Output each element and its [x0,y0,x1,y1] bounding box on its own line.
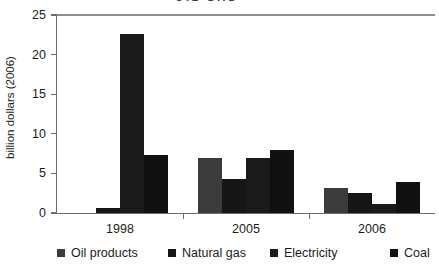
y-tick: 15 [51,94,57,95]
legend-label: Coal [404,246,430,260]
x-axis-label: 2006 [358,222,386,236]
y-tick-label: 0 [39,206,46,220]
plot-top-border [56,14,435,15]
bar [96,208,120,213]
y-tick-label: 25 [32,8,46,22]
cropped-title-text: OIL GAS [175,0,238,3]
bar [348,193,372,213]
legend-label: Oil products [71,246,138,260]
legend-swatch-icon [270,249,278,257]
legend-swatch-icon [390,249,398,257]
bar [198,158,222,213]
y-tick: 20 [51,54,57,55]
x-axis-label: 2005 [232,222,260,236]
x-axis-line [56,213,435,214]
legend-label: Natural gas [182,246,246,260]
legend-swatch-icon [168,249,176,257]
bar [144,155,168,213]
legend-swatch-icon [57,249,65,257]
y-tick: 25 [51,14,57,15]
y-tick-label: 5 [39,166,46,180]
bar [270,150,294,213]
y-tick: 10 [51,133,57,134]
legend-item[interactable]: Oil products [57,246,138,260]
cropped-title-sliver: OIL GAS [0,0,439,7]
y-tick-label: 10 [32,127,46,141]
bar [120,34,144,213]
bar [372,204,396,214]
legend-item[interactable]: Natural gas [168,246,246,260]
legend-item[interactable]: Electricity [270,246,337,260]
y-tick-label: 20 [32,48,46,62]
bar [246,158,270,213]
y-axis-line [56,15,57,214]
x-axis-label: 1998 [106,222,134,236]
plot-area: 0510152025 199820052006 [57,15,435,213]
legend-item[interactable]: Coal [390,246,430,260]
y-tick: 5 [51,173,57,174]
bar [222,179,246,213]
chart-legend: Oil productsNatural gasElectricityCoal [0,246,439,264]
y-tick: 0 [51,212,57,213]
bar [324,188,348,213]
legend-label: Electricity [284,246,337,260]
bar-chart: OIL GAS billion dollars (2006) 051015202… [0,0,439,267]
x-tick [309,213,310,219]
y-axis-title: billion dollars (2006) [3,0,17,215]
x-tick [183,213,184,219]
y-tick-label: 15 [32,87,46,101]
bar [396,182,420,213]
